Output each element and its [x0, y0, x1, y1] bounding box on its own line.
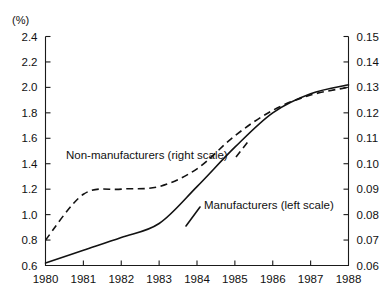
svg-text:1982: 1982: [108, 273, 134, 285]
svg-text:1.4: 1.4: [22, 158, 39, 170]
leader-line-non-manufacturers: [236, 139, 250, 157]
svg-text:0.09: 0.09: [357, 183, 379, 195]
svg-text:0.15: 0.15: [357, 31, 379, 43]
svg-text:2.4: 2.4: [22, 31, 39, 43]
svg-text:0.12: 0.12: [357, 107, 379, 119]
left-axis-unit-label: (%): [12, 14, 29, 26]
svg-text:2.0: 2.0: [22, 81, 38, 93]
svg-text:0.11: 0.11: [357, 132, 379, 144]
svg-text:0.07: 0.07: [357, 234, 379, 246]
svg-text:0.14: 0.14: [357, 56, 380, 68]
chart-figure: 0.60.81.01.21.41.61.82.02.22.40.060.070.…: [0, 0, 392, 305]
dual-axis-line-chart: 0.60.81.01.21.41.61.82.02.22.40.060.070.…: [0, 0, 392, 305]
svg-text:1.8: 1.8: [22, 107, 38, 119]
svg-text:1985: 1985: [222, 273, 248, 285]
svg-text:1.0: 1.0: [22, 209, 38, 221]
annotation-non-manufacturers: Non-manufacturers (right scale): [66, 149, 228, 161]
svg-text:1980: 1980: [33, 273, 59, 285]
svg-text:1988: 1988: [336, 273, 362, 285]
svg-text:0.06: 0.06: [357, 260, 379, 272]
svg-text:0.10: 0.10: [357, 158, 379, 170]
svg-text:0.8: 0.8: [22, 234, 38, 246]
svg-text:0.08: 0.08: [357, 209, 379, 221]
svg-text:1.2: 1.2: [22, 183, 38, 195]
svg-text:1984: 1984: [184, 273, 210, 285]
svg-text:1981: 1981: [71, 273, 97, 285]
series-line-non-manufacturers: [46, 87, 349, 240]
svg-text:1987: 1987: [298, 273, 324, 285]
svg-text:0.13: 0.13: [357, 81, 379, 93]
svg-text:0.6: 0.6: [22, 260, 38, 272]
svg-text:1.6: 1.6: [22, 132, 38, 144]
svg-text:1983: 1983: [146, 273, 172, 285]
leader-line-manufacturers: [186, 207, 200, 226]
svg-text:1986: 1986: [260, 273, 286, 285]
svg-text:2.2: 2.2: [22, 56, 38, 68]
series-line-manufacturers: [46, 85, 349, 263]
data-series: [46, 85, 349, 263]
annotation-manufacturers: Manufacturers (left scale): [204, 199, 334, 211]
